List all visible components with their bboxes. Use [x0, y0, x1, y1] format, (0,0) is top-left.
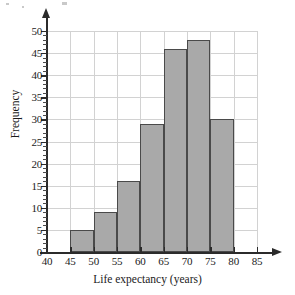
- x-axis-tick-label: 75: [198, 256, 222, 267]
- gridline-vertical: [234, 31, 235, 252]
- y-axis-minor-tick: [43, 195, 47, 196]
- scan-artifact: [6, 3, 9, 5]
- gridline-horizontal: [47, 97, 257, 98]
- y-axis-minor-tick: [43, 221, 47, 222]
- x-axis-tick: [187, 247, 188, 253]
- y-axis-minor-tick: [43, 128, 47, 129]
- x-axis-title: Life expectancy (years): [0, 273, 295, 285]
- y-axis-minor-tick: [43, 111, 47, 112]
- y-axis-minor-tick: [43, 225, 47, 226]
- y-axis-minor-tick: [43, 71, 47, 72]
- y-axis-minor-tick: [43, 212, 47, 213]
- x-axis-tick-label: 40: [35, 256, 59, 267]
- gridline-horizontal: [47, 75, 257, 76]
- y-axis-minor-tick: [43, 133, 47, 134]
- y-axis-tick-label: 25: [18, 137, 42, 148]
- y-axis-minor-tick: [43, 150, 47, 151]
- y-axis-tick-label: 45: [18, 48, 42, 59]
- y-axis-minor-tick: [43, 124, 47, 125]
- x-axis-tick: [257, 247, 258, 253]
- y-axis-minor-tick: [43, 146, 47, 147]
- y-axis-minor-tick: [43, 84, 47, 85]
- histogram-bar: [187, 40, 210, 252]
- y-axis-minor-tick: [43, 44, 47, 45]
- histogram-bar: [94, 212, 117, 252]
- scan-artifact: [22, 6, 24, 8]
- y-axis-minor-tick: [43, 159, 47, 160]
- x-axis-tick-label: 60: [128, 256, 152, 267]
- x-axis-tick-label: 85: [245, 256, 269, 267]
- y-axis-minor-tick: [43, 66, 47, 67]
- y-axis-minor-tick: [43, 199, 47, 200]
- histogram-bar: [210, 119, 233, 252]
- y-axis-minor-tick: [43, 168, 47, 169]
- y-axis-tick-label: 50: [18, 26, 42, 37]
- gridline-horizontal: [47, 53, 257, 54]
- histogram-chart: 05101520253035404550 4045505560657075808…: [0, 0, 295, 295]
- x-axis-tick: [140, 247, 141, 253]
- y-axis-minor-tick: [43, 40, 47, 41]
- y-axis-minor-tick: [43, 172, 47, 173]
- x-axis-tick: [47, 247, 48, 253]
- histogram-bar: [140, 124, 163, 252]
- y-axis-tick-label: 35: [18, 92, 42, 103]
- y-axis-tick-label: 5: [18, 225, 42, 236]
- x-axis-tick-label: 65: [152, 256, 176, 267]
- y-axis-minor-tick: [43, 190, 47, 191]
- x-axis-tick: [234, 247, 235, 253]
- x-axis-tick: [94, 247, 95, 253]
- histogram-bar: [117, 181, 140, 252]
- y-axis-minor-tick: [43, 115, 47, 116]
- gridline-vertical: [257, 31, 258, 252]
- y-axis-minor-tick: [43, 62, 47, 63]
- y-axis-minor-tick: [43, 58, 47, 59]
- histogram-bar: [70, 230, 93, 252]
- plot-area: [47, 31, 257, 252]
- x-axis-tick-label: 50: [82, 256, 106, 267]
- histogram-bar: [164, 49, 187, 252]
- y-axis-tick-label: 40: [18, 70, 42, 81]
- y-axis-minor-tick: [43, 106, 47, 107]
- y-axis-minor-tick: [43, 49, 47, 50]
- y-axis-minor-tick: [43, 102, 47, 103]
- x-axis-tick-label: 70: [175, 256, 199, 267]
- x-axis-tick-label: 45: [58, 256, 82, 267]
- y-axis-tick-label: 30: [18, 114, 42, 125]
- y-axis-minor-tick: [43, 88, 47, 89]
- y-axis-minor-tick: [43, 177, 47, 178]
- x-axis-tick: [210, 247, 211, 253]
- y-axis-tick-label: 10: [18, 203, 42, 214]
- x-axis-tick: [70, 247, 71, 253]
- gridline-vertical: [70, 31, 71, 252]
- scan-artifact: [62, 2, 67, 5]
- y-axis-minor-tick: [43, 35, 47, 36]
- y-axis-minor-tick: [43, 93, 47, 94]
- x-axis-arrow-icon: [272, 248, 282, 256]
- y-axis-arrow-icon: [42, 8, 50, 18]
- x-axis-tick-label: 80: [222, 256, 246, 267]
- x-axis-tick-label: 55: [105, 256, 129, 267]
- y-axis-minor-tick: [43, 234, 47, 235]
- gridline-horizontal: [47, 31, 257, 32]
- x-axis-tick: [117, 247, 118, 253]
- y-axis-minor-tick: [43, 181, 47, 182]
- x-axis-line: [40, 252, 274, 254]
- y-axis-minor-tick: [43, 203, 47, 204]
- y-axis-minor-tick: [43, 155, 47, 156]
- y-axis-minor-tick: [43, 217, 47, 218]
- y-axis-minor-tick: [43, 80, 47, 81]
- y-axis-tick-label: 20: [18, 159, 42, 170]
- y-axis-tick-label: 15: [18, 181, 42, 192]
- x-axis-tick: [164, 247, 165, 253]
- y-axis-minor-tick: [43, 137, 47, 138]
- y-axis-minor-tick: [43, 243, 47, 244]
- y-axis-title: Frequency: [9, 64, 21, 164]
- y-axis-minor-tick: [43, 239, 47, 240]
